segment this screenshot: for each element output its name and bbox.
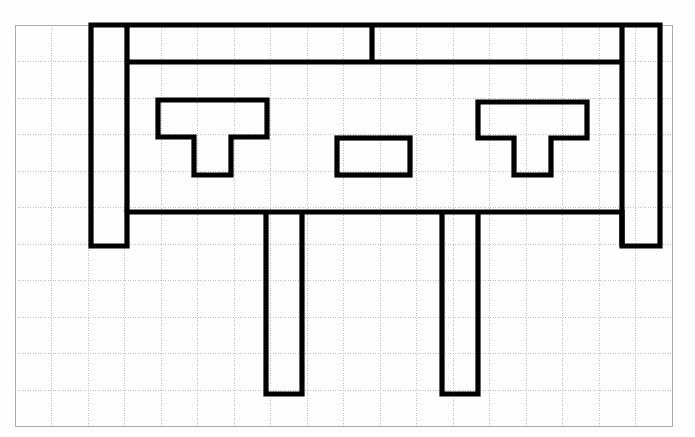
- right-leg: Right vertical leg descending from the b…: [442, 212, 478, 394]
- figure-line-drawing: Large rectangular frame forming the body…: [91, 25, 660, 394]
- left-leg: Left vertical leg descending from the bo…: [266, 212, 302, 394]
- graph-paper-grid: [15, 25, 672, 427]
- drawing-canvas: Graph paper line drawing Hand-drawn bloc…: [0, 0, 695, 437]
- center-mouth-rectangle: Small horizontal rectangle in the middle…: [337, 138, 410, 175]
- graph-paper-figure: Large rectangular frame forming the body…: [0, 0, 695, 437]
- left-eye-shape: Left T-shaped eye: wide horizontal bar w…: [158, 100, 267, 175]
- right-eye-shape: Right T-shaped eye: wide horizontal bar …: [478, 102, 587, 175]
